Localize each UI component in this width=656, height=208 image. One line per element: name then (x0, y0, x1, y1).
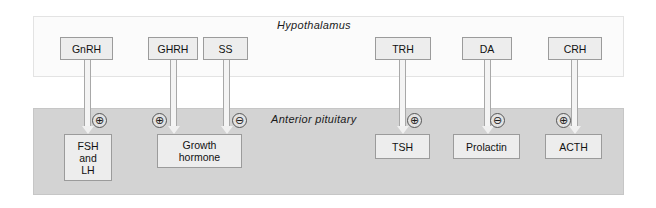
node-fsh-lh[interactable]: FSH and LH (64, 134, 112, 181)
node-crh-label: CRH (564, 43, 587, 55)
sign-plus-crh-acth: ⊕ (556, 113, 571, 128)
node-ss-label: SS (218, 43, 232, 55)
node-gnrh-label: GnRH (72, 43, 101, 55)
arrow-head-crh-acth (569, 126, 581, 134)
node-prolactin-label: Prolactin (466, 141, 507, 153)
arrow-shaft-ss-gh (223, 60, 230, 126)
panel-hypothalamus-label: Hypothalamus (277, 19, 351, 31)
node-ghrh-label: GHRH (158, 43, 189, 55)
plus-circle-icon: ⊕ (95, 115, 104, 126)
arrow-shaft-ghrh-gh (170, 60, 177, 126)
arrow-shaft-gnrh-fsh-lh (84, 60, 91, 126)
arrow-head-ss-gh (221, 126, 233, 134)
arrow-head-trh-tsh (397, 126, 409, 134)
plus-circle-icon: ⊕ (559, 115, 568, 126)
plus-circle-icon: ⊕ (410, 115, 419, 126)
node-gnrh[interactable]: GnRH (60, 37, 113, 60)
node-growth-hormone-line2: hormone (179, 151, 220, 163)
node-fsh-lh-line2: and (79, 152, 97, 164)
node-tsh-label: TSH (392, 141, 413, 153)
arrow-head-ghrh-gh (168, 126, 180, 134)
node-trh-label: TRH (392, 43, 414, 55)
node-fsh-lh-line3: LH (81, 164, 94, 176)
sign-plus-trh-tsh: ⊕ (407, 113, 422, 128)
minus-circle-icon: ⊖ (493, 115, 502, 126)
node-growth-hormone[interactable]: Growth hormone (157, 134, 242, 168)
sign-plus-gnrh-fsh-lh: ⊕ (92, 113, 107, 128)
arrow-shaft-trh-tsh (399, 60, 406, 126)
node-growth-hormone-line1: Growth (183, 139, 217, 151)
node-fsh-lh-line1: FSH (78, 140, 99, 152)
arrow-shaft-crh-acth (571, 60, 578, 126)
node-ss[interactable]: SS (203, 37, 248, 60)
node-tsh[interactable]: TSH (375, 134, 430, 159)
sign-minus-da-prolactin: ⊖ (490, 113, 505, 128)
node-acth-label: ACTH (559, 141, 588, 153)
node-da-label: DA (480, 43, 495, 55)
panel-anterior-pituitary-label: Anterior pituitary (271, 113, 357, 125)
sign-plus-ghrh-gh: ⊕ (152, 113, 167, 128)
sign-minus-ss-gh: ⊖ (232, 113, 247, 128)
hormone-axis-diagram: Hypothalamus Anterior pituitary GnRH GHR… (0, 0, 656, 208)
node-acth[interactable]: ACTH (545, 134, 602, 159)
arrow-head-da-prolactin (482, 126, 494, 134)
arrow-head-gnrh-fsh-lh (82, 126, 94, 134)
plus-circle-icon: ⊕ (155, 115, 164, 126)
minus-circle-icon: ⊖ (235, 115, 244, 126)
node-trh[interactable]: TRH (375, 37, 431, 60)
node-prolactin[interactable]: Prolactin (453, 134, 520, 159)
node-ghrh[interactable]: GHRH (148, 37, 198, 60)
node-da[interactable]: DA (462, 37, 512, 60)
node-crh[interactable]: CRH (548, 37, 602, 60)
